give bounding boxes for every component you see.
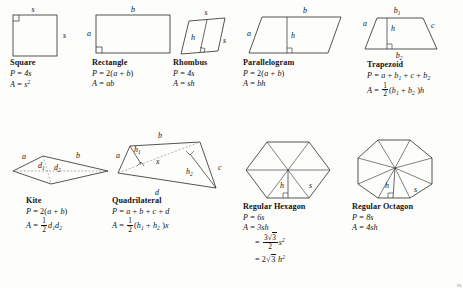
trapezoid-label-left: a [363,19,367,28]
regular-octagon-diagram: h s [352,136,444,202]
square-label-right: s [63,31,66,40]
quadrilateral-perimeter: P = a + b + c + d [112,207,234,216]
parallelogram-perimeter: P = 2(a + b) [243,69,347,78]
figure-trapezoid: b1 b2 a c h Trapezoid P = a + b1 + c + b… [355,4,455,98]
trapezoid-diagram: b1 b2 a c h [355,4,455,60]
kite-diagram: a b d1 d2 [8,140,120,196]
regular-octagon-caption: Regular Octagon [352,202,444,211]
trapezoid-label-top: b1 [394,6,401,16]
quadrilateral-label-bottom: d [155,188,160,196]
parallelogram-label-left: a [247,29,251,38]
square-perimeter: P = 4s [10,69,88,78]
parallelogram-diagram: b a h [243,6,347,58]
trapezoid-label-height: h [391,24,395,33]
copyright-notice: © Cengage Learning 2013 [456,284,462,288]
figure-square: s s Square P = 4s A = s2 [10,6,88,89]
figure-quadrilateral: b d a c h1 h2 x Quadrilateral P = a + b … [108,126,234,234]
parallelogram-label-height: h [291,31,295,40]
trapezoid-label-bottom: b2 [396,51,403,60]
figure-rhombus: s s h Rhombus P = 4s A = sh [173,6,239,88]
rectangle-label-left: a [87,29,91,38]
figure-regular-octagon: h s Regular Octagon P = 8s A = 4sh [352,136,444,232]
figure-regular-hexagon: h s Regular Hexagon P = 6s A = 3sh = 3√3… [243,136,339,264]
rectangle-diagram: b a [84,6,176,58]
regular-octagon-area: A = 4sh [352,223,444,232]
kite-label-diagonal2: d2 [54,163,61,173]
kite-perimeter: P = 2(a + b) [26,207,120,216]
quadrilateral-label-diagonal: x [155,157,160,166]
kite-label-left: a [22,152,26,161]
rectangle-caption: Rectangle [92,58,176,67]
trapezoid-label-right: c [431,21,435,30]
parallelogram-label-top: b [303,6,307,15]
regular-octagon-label-apothem: h [385,181,389,190]
trapezoid-area: A = 12(b1 + b2 )h [367,82,455,99]
rectangle-label-top: b [131,6,135,14]
regular-hexagon-area-alt-1: = 3√32s2 [255,234,339,251]
regular-hexagon-label-side: s [309,181,312,190]
rectangle-area: A = ab [92,79,176,88]
kite-caption: Kite [26,196,120,205]
regular-hexagon-diagram: h s [243,136,339,202]
figure-kite: a b d1 d2 Kite P = 2(a + b) A = 12d1d2 [8,140,120,234]
quadrilateral-area: A = 12(h1 + h2 )x [112,217,234,234]
regular-hexagon-caption: Regular Hexagon [243,202,339,211]
regular-octagon-perimeter: P = 8s [352,213,444,222]
quadrilateral-label-right: c [218,163,222,172]
rhombus-caption: Rhombus [173,58,239,67]
trapezoid-perimeter: P = a + b1 + c + b2 [367,71,455,81]
square-caption: Square [10,58,88,67]
quadrilateral-caption: Quadrilateral [112,196,234,205]
rhombus-label-right: s [223,36,226,45]
quadrilateral-label-left: a [116,151,120,160]
regular-hexagon-label-apothem: h [280,181,284,190]
regular-hexagon-area: A = 3sh [243,223,339,232]
quadrilateral-label-top: b [158,131,162,140]
figure-parallelogram: b a h Parallelogram P = 2(a + b) A = bh [243,6,347,88]
rhombus-label-top: s [204,8,207,17]
kite-label-right: b [76,151,80,160]
parallelogram-area: A = bh [243,79,347,88]
quadrilateral-label-height2: h2 [186,167,193,177]
rhombus-perimeter: P = 4s [173,69,239,78]
parallelogram-caption: Parallelogram [243,58,347,67]
square-label-top: s [31,6,34,14]
rhombus-diagram: s s h [173,6,239,58]
kite-area: A = 12d1d2 [26,217,120,234]
kite-label-diagonal1: d1 [38,161,45,171]
quadrilateral-diagram: b d a c h1 h2 x [108,126,234,196]
rhombus-area: A = sh [173,79,239,88]
formula-sheet: s s Square P = 4s A = s2 b a Rectangle P… [0,0,463,288]
rhombus-label-height: h [191,33,195,42]
trapezoid-caption: Trapezoid [367,60,455,69]
rectangle-perimeter: P = 2(a + b) [92,69,176,78]
quadrilateral-label-height1: h1 [134,145,141,155]
square-diagram: s s [10,6,88,58]
regular-hexagon-perimeter: P = 6s [243,213,339,222]
regular-hexagon-area-alt-2: = 2√3 h2 [255,254,339,264]
figure-rectangle: b a Rectangle P = 2(a + b) A = ab [84,6,176,88]
square-area: A = s2 [10,79,88,89]
regular-octagon-label-side: s [414,185,417,194]
